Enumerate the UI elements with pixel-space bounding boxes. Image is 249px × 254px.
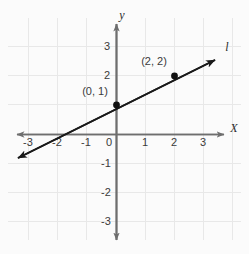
y-tick-3: 3 bbox=[104, 40, 110, 52]
x-tick-2: 2 bbox=[171, 136, 177, 148]
x-axis-label: X bbox=[229, 121, 238, 135]
y-tick--1: -1 bbox=[101, 157, 111, 169]
y-tick--2: -2 bbox=[101, 186, 111, 198]
x-tick-3: 3 bbox=[200, 136, 206, 148]
coordinate-plane-figure: X y -3 -2 -1 0 1 2 3 3 2 -1 -2 -3 (0, 1)… bbox=[0, 0, 249, 254]
y-tick-2: 2 bbox=[104, 69, 110, 81]
plot-background bbox=[0, 0, 249, 254]
x-tick-0: 0 bbox=[106, 136, 112, 148]
point-label-2-2: (2, 2) bbox=[141, 55, 167, 67]
point-label-0-1: (0, 1) bbox=[82, 85, 108, 97]
y-tick--3: -3 bbox=[101, 215, 111, 227]
x-tick--1: -1 bbox=[81, 136, 91, 148]
y-axis-label: y bbox=[118, 8, 125, 22]
data-point-0-1 bbox=[113, 102, 120, 109]
x-tick--3: -3 bbox=[23, 136, 33, 148]
data-point-2-2 bbox=[171, 73, 178, 80]
graph-canvas: X y -3 -2 -1 0 1 2 3 3 2 -1 -2 -3 (0, 1)… bbox=[0, 0, 249, 254]
x-tick-1: 1 bbox=[142, 136, 148, 148]
